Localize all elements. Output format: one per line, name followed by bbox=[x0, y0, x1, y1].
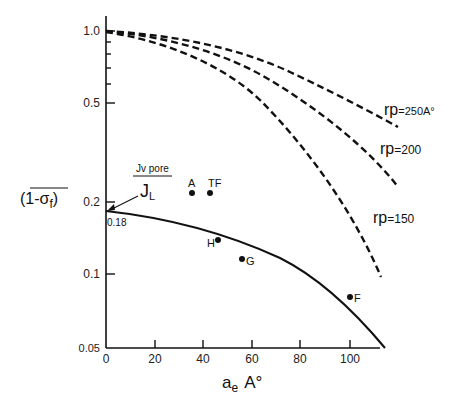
x-tick-label: 40 bbox=[196, 352, 210, 366]
jv-pore-annotation: Jv pore JL bbox=[107, 163, 172, 211]
curve-rp250 bbox=[106, 31, 398, 127]
intercept-label: 0.18 bbox=[107, 217, 127, 228]
x-tick-label: 0 bbox=[103, 352, 110, 366]
point-H bbox=[215, 237, 221, 243]
label-rp200: rp=200 bbox=[380, 140, 422, 157]
x-tick-label: 20 bbox=[148, 352, 162, 366]
svg-text:(1-σf): (1-σf) bbox=[20, 190, 58, 211]
y-tick-label: 0.1 bbox=[83, 267, 100, 281]
point-label-A: A bbox=[188, 177, 196, 189]
y-axis-title: (1-σf) bbox=[20, 188, 68, 211]
y-tick-label: 0.5 bbox=[83, 96, 100, 110]
point-G bbox=[239, 256, 245, 262]
point-label-TF: TF bbox=[208, 177, 222, 189]
y-tick-label: 1.0 bbox=[83, 24, 100, 38]
svg-text:JL: JL bbox=[140, 181, 155, 202]
point-A bbox=[189, 190, 195, 196]
curve-jv-pore bbox=[106, 211, 385, 348]
y-tick-label: 0.2 bbox=[83, 195, 100, 209]
point-label-F: F bbox=[354, 292, 361, 304]
y-tick-label: 0.05 bbox=[79, 342, 100, 354]
svg-text:aeA°: aeA° bbox=[222, 373, 262, 395]
x-ticks bbox=[155, 340, 350, 348]
point-F bbox=[347, 294, 353, 300]
point-TF bbox=[207, 190, 213, 196]
x-tick-label: 60 bbox=[245, 352, 259, 366]
x-axis-title: aeA° bbox=[222, 373, 262, 395]
label-rp250: rp=250A° bbox=[384, 101, 435, 118]
x-tick-label: 80 bbox=[293, 352, 307, 366]
point-label-H: H bbox=[207, 237, 215, 249]
x-tick-label: 100 bbox=[340, 352, 360, 366]
svg-text:Jv pore: Jv pore bbox=[136, 163, 169, 174]
label-rp150: rp=150 bbox=[373, 209, 415, 226]
y-ticks bbox=[106, 31, 115, 274]
chart: 1.0 0.5 0.2 0.1 0.05 0 20 40 60 80 100 (… bbox=[0, 0, 449, 412]
point-label-G: G bbox=[246, 255, 255, 267]
curve-rp150 bbox=[106, 32, 381, 277]
